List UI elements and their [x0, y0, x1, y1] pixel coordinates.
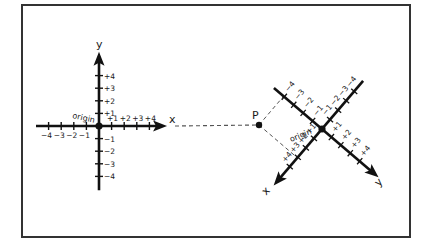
y-tick-label: +4 — [104, 72, 115, 81]
rotated-coordinate-system: −4−3−2−1+1+2+3+4x−4−3−2−1+1+2+3+4yorigin — [259, 74, 386, 198]
x-axis-label: x — [169, 113, 176, 126]
dashed-projection-to-y — [259, 96, 284, 125]
y-axis-label: y — [96, 38, 103, 51]
origin-label: origin — [72, 111, 96, 125]
point-p-label: P — [252, 109, 259, 122]
x-tick-label: −2 — [66, 131, 77, 140]
x-tick-label: −3 — [54, 131, 65, 140]
y-tick-label: −1 — [311, 103, 325, 117]
point-p-dot — [256, 122, 262, 128]
y-tick-label: +2 — [104, 97, 115, 106]
y-tick-label: +4 — [358, 144, 372, 158]
y-axis-label: y — [372, 175, 386, 189]
x-tick-label: +4 — [145, 114, 156, 123]
origin-dot-rotated — [318, 125, 325, 132]
x-tick-label: +2 — [120, 114, 131, 123]
x-tick-label: +3 — [132, 114, 143, 123]
y-tick-label: +1 — [104, 109, 115, 118]
coordinate-systems-diagram: x−4−3−2−1+1+2+3+4y+4+3+2+1−1−2−3−4origin… — [0, 0, 429, 251]
y-tick-label: −3 — [104, 160, 115, 169]
y-tick-label: −2 — [104, 147, 115, 156]
y-tick-label: −1 — [104, 135, 115, 144]
x-axis-label: x — [259, 184, 273, 198]
y-tick-label: −4 — [104, 172, 115, 181]
horizontal-dashed-line — [175, 125, 259, 126]
origin-dot — [95, 122, 102, 129]
x-tick-label: −4 — [41, 131, 52, 140]
projection-lines — [175, 96, 297, 158]
x-tick-label: −1 — [79, 131, 90, 140]
y-axis: y+4+3+2+1−1−2−3−4 — [94, 38, 116, 191]
y-tick-label: +3 — [104, 84, 115, 93]
standard-coordinate-system: x−4−3−2−1+1+2+3+4y+4+3+2+1−1−2−3−4origin — [36, 38, 176, 191]
